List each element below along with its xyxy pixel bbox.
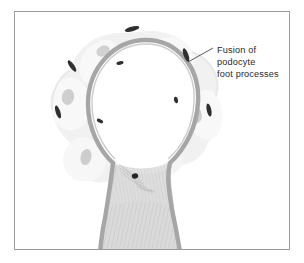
annotation-line-1: Fusion of	[217, 45, 256, 55]
podocyte-diagram-svg: Fusion of podocyte foot processes	[0, 0, 304, 263]
annotation-line-2: podocyte	[217, 57, 256, 67]
annotation-line-3: foot processes	[217, 69, 279, 79]
figure-root: Fusion of podocyte foot processes	[0, 0, 304, 263]
